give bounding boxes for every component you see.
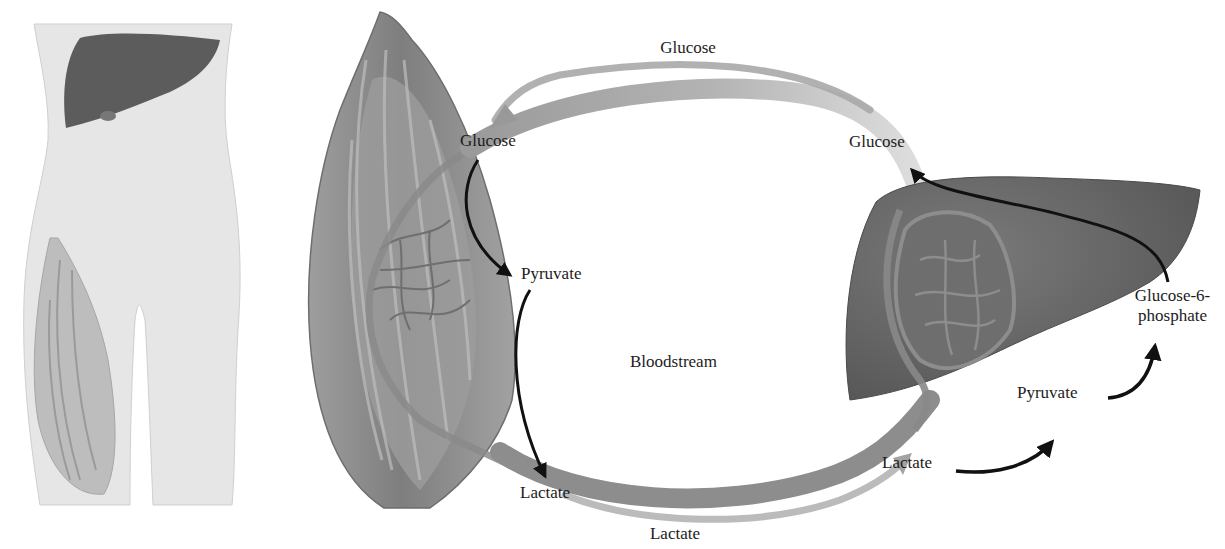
reduction-arrow-pyruvate-to-lactate [516,290,545,476]
label-glucose-liver: Glucose [849,132,905,151]
label-lactate-muscle: Lactate [520,483,570,502]
label-glucose-6-phosphate-line2: phosphate [1120,306,1225,325]
label-glucose-muscle: Glucose [460,131,516,150]
label-lactate-liver: Lactate [882,453,932,472]
label-glucose-6-phosphate-line1: Glucose-6- [1120,286,1225,305]
label-pyruvate-muscle: Pyruvate [521,264,581,283]
gluconeogenesis-arrow-pyruvate-to-g6p [1108,346,1155,398]
label-lactate-transport: Lactate [625,524,725,543]
cori-cycle-diagram [0,0,1225,549]
label-glucose-transport: Glucose [638,38,738,57]
label-bloodstream: Bloodstream [630,352,717,371]
liver-lobe-detail [896,212,1014,368]
muscle-illustration [309,12,520,508]
gallbladder-shape [100,111,116,121]
label-pyruvate-liver: Pyruvate [1017,383,1077,402]
body-outline-illustration [24,24,240,505]
oxidation-arrow-lactate-to-pyruvate [956,442,1052,472]
